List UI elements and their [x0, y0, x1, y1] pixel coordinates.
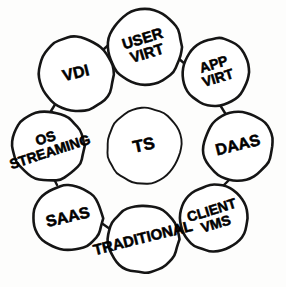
virtualization-ring-diagram: USERVIRTAPPVIRTDAASCLIENTVMSTRADITIONALS… [0, 0, 286, 287]
diagram-canvas: USERVIRTAPPVIRTDAASCLIENTVMSTRADITIONALS… [0, 0, 286, 287]
